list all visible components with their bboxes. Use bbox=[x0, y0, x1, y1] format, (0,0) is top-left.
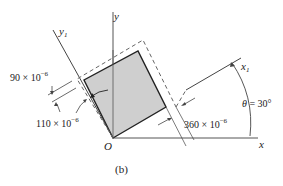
undeformed-element bbox=[84, 51, 166, 138]
x1-axis bbox=[186, 58, 241, 90]
shear-strain-label: 110 × 10−6 bbox=[36, 117, 79, 129]
angle-label: θ = 30° bbox=[242, 99, 272, 109]
figure-caption: (b) bbox=[115, 164, 128, 175]
origin-label: O bbox=[104, 141, 112, 152]
normal-strain-y1-label: 90 × 10−6 bbox=[10, 71, 48, 83]
strain-element-diagram bbox=[0, 0, 283, 186]
y-axis-label: y bbox=[114, 11, 119, 22]
y1-axis-label: y1 bbox=[59, 26, 67, 39]
normal-strain-x1-label: 360 × 10−6 bbox=[184, 118, 227, 130]
x1-axis-label: x1 bbox=[241, 61, 249, 74]
x-axis-label: x bbox=[259, 139, 264, 150]
